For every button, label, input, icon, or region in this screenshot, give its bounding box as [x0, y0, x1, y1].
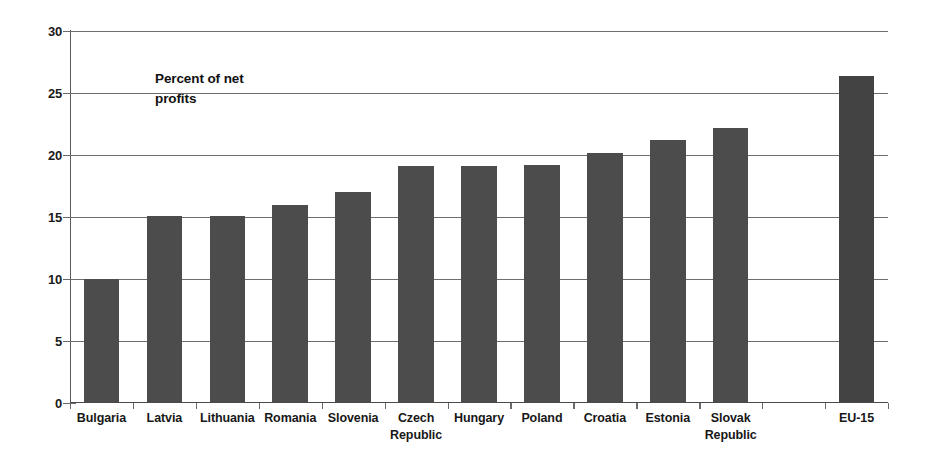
bar	[587, 153, 623, 403]
x-axis-category-label-line: Estonia	[636, 410, 699, 427]
x-axis-tick-mark	[196, 403, 197, 409]
y-axis-tick-mark-inner	[70, 155, 76, 156]
y-axis-tick-mark-inner	[70, 403, 76, 404]
bar	[147, 216, 183, 403]
x-axis-category-label	[762, 410, 825, 444]
x-axis-category-label: Romania	[259, 410, 322, 444]
y-axis-tick-label: 20	[28, 149, 62, 162]
y-axis-tick-mark	[63, 155, 70, 156]
x-axis-category-label: Bulgaria	[70, 410, 133, 444]
plot-area: Percent of net profits	[70, 31, 888, 403]
y-axis-tick-label: 0	[28, 397, 62, 410]
bar-slot	[699, 31, 762, 403]
x-axis-category-label-line: Poland	[510, 410, 573, 427]
bar-slot	[825, 31, 888, 403]
x-axis-tick-marks	[70, 403, 888, 410]
x-axis-category-label: Poland	[510, 410, 573, 444]
x-axis-tick-mark	[133, 403, 134, 409]
y-axis-tick-label: 10	[28, 273, 62, 286]
bar-slot	[322, 31, 385, 403]
x-axis-tick-mark	[322, 403, 323, 409]
x-axis-category-label: Hungary	[448, 410, 511, 444]
chart-annotation-label: Percent of net profits	[155, 69, 244, 108]
bar-slot	[573, 31, 636, 403]
x-axis-category-labels: BulgariaLatviaLithuaniaRomaniaSloveniaCz…	[70, 410, 888, 444]
x-axis-tick-mark	[385, 403, 386, 409]
bar-slot	[448, 31, 511, 403]
bar-slot	[510, 31, 573, 403]
bar-slot	[70, 31, 133, 403]
x-axis-category-label-line: Croatia	[573, 410, 636, 427]
x-axis-category-label-line: Republic	[385, 427, 448, 444]
x-axis-tick-mark	[636, 403, 637, 409]
x-axis-category-label: Croatia	[573, 410, 636, 444]
bar	[84, 279, 120, 403]
x-axis-category-label-line: Slovak	[699, 410, 762, 427]
bar-slot	[636, 31, 699, 403]
x-axis-tick-mark	[699, 403, 700, 409]
x-axis-category-label-line: Latvia	[133, 410, 196, 427]
x-axis-category-label: SlovakRepublic	[699, 410, 762, 444]
x-axis-category-label: Estonia	[636, 410, 699, 444]
y-axis-tick-mark-inner	[70, 279, 76, 280]
y-axis-tick-mark-inner	[70, 93, 76, 94]
x-axis-tick-mark	[259, 403, 260, 409]
y-axis-tick-mark	[63, 93, 70, 94]
y-axis-tick-label: 25	[28, 87, 62, 100]
bar	[335, 192, 371, 403]
y-axis-tick-mark	[63, 279, 70, 280]
bar-chart-figure: 051015202530 Percent of net profits Bulg…	[0, 0, 931, 469]
x-axis-tick-mark	[573, 403, 574, 409]
x-axis-tick-mark	[825, 403, 826, 409]
bar-slot	[259, 31, 322, 403]
x-axis-category-label-line: Republic	[699, 427, 762, 444]
bar	[524, 165, 560, 403]
y-axis-tick-mark	[63, 217, 70, 218]
y-axis-tick-mark	[63, 403, 70, 404]
x-axis-category-label: Lithuania	[196, 410, 259, 444]
x-axis-category-label: EU-15	[825, 410, 888, 444]
x-axis-tick-mark	[888, 403, 889, 409]
x-axis-category-label-line: Lithuania	[196, 410, 259, 427]
y-axis-tick-mark	[63, 31, 70, 32]
x-axis-category-label: Slovenia	[322, 410, 385, 444]
bar	[650, 140, 686, 403]
x-axis-tick-mark	[448, 403, 449, 409]
x-axis-category-label: CzechRepublic	[385, 410, 448, 444]
x-axis-category-label-line: EU-15	[825, 410, 888, 427]
x-axis-category-label-line: Romania	[259, 410, 322, 427]
bar	[713, 128, 749, 403]
x-axis-category-label-line: Slovenia	[322, 410, 385, 427]
y-axis-tick-label: 5	[28, 335, 62, 348]
x-axis-category-label-line: Czech	[385, 410, 448, 427]
x-axis-category-label-line: Hungary	[448, 410, 511, 427]
bar-slot	[385, 31, 448, 403]
bar	[272, 205, 308, 403]
y-axis-tick-mark-inner	[70, 31, 76, 32]
bar	[398, 166, 434, 403]
bar-slot	[762, 31, 825, 403]
y-axis-tick-mark-inner	[70, 217, 76, 218]
y-axis-tick-mark	[63, 341, 70, 342]
bar	[461, 166, 497, 403]
bar	[210, 216, 246, 403]
y-axis-tick-label: 30	[28, 25, 62, 38]
x-axis-tick-mark	[510, 403, 511, 409]
x-axis-category-label: Latvia	[133, 410, 196, 444]
y-axis-tick-label: 15	[28, 211, 62, 224]
x-axis-category-label-line: Bulgaria	[70, 410, 133, 427]
x-axis-tick-mark	[762, 403, 763, 409]
y-axis-tick-mark-inner	[70, 341, 76, 342]
bar	[839, 76, 875, 403]
y-axis-tick-labels: 051015202530	[24, 0, 62, 469]
